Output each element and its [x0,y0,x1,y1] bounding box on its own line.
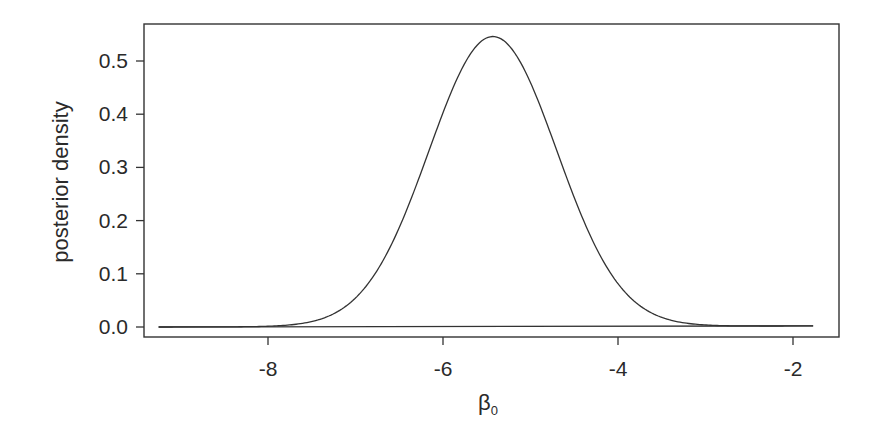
plot-frame [144,24,839,337]
x-tick-label: -2 [784,357,803,380]
density-curve [159,37,814,327]
x-tick-label: -4 [609,357,628,380]
x-axis: -8-6-4-2 [259,337,803,380]
x-axis-title-subscript: 0 [491,403,498,418]
x-axis-title-symbol: β [478,390,491,415]
y-tick-label: 0.4 [99,102,129,125]
x-tick-label: -8 [259,357,278,380]
x-tick-label: -6 [434,357,453,380]
y-tick-label: 0.2 [99,209,128,232]
y-axis-title: posterior density [48,101,73,262]
x-axis-title: β0 [478,390,498,418]
y-tick-label: 0.1 [99,262,128,285]
y-tick-label: 0.3 [99,155,128,178]
y-tick-label: 0.0 [99,315,128,338]
posterior-density-chart: 0.00.10.20.30.40.5 -8-6-4-2 posterior de… [0,0,881,437]
y-tick-label: 0.5 [99,49,128,72]
y-axis: 0.00.10.20.30.40.5 [99,49,144,338]
